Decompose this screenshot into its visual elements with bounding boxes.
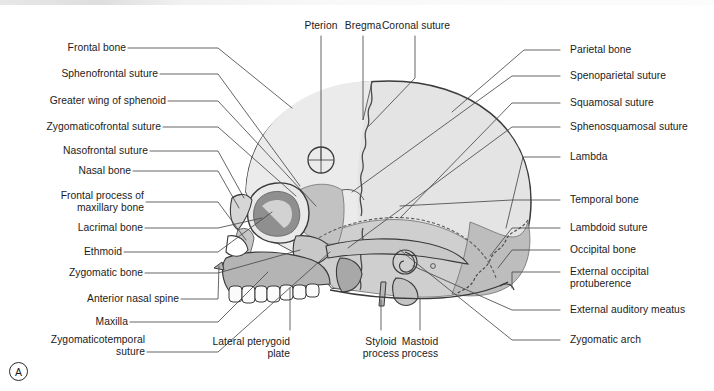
label-zygomatic-arch[interactable]: Zygomatic arch [570,334,702,346]
label-external-occipital-protuberence[interactable]: External occipital protuberence [570,266,698,291]
label-lambda[interactable]: Lambda [570,151,690,163]
label-coronal-suture[interactable]: Coronal suture [370,20,462,32]
label-ethmoid[interactable]: Ethmoid [0,246,122,258]
label-parietal-bone[interactable]: Parietal bone [570,44,712,56]
leader-anterior-nasal-spine [181,266,219,299]
label-zygomatic-bone[interactable]: Zygomatic bone [0,267,143,279]
label-sphenofrontal-suture[interactable]: Sphenofrontal suture [0,68,158,80]
panel-letter-a: A [9,362,28,381]
label-frontal-process-of-maxillary-bone[interactable]: Frontal process of maxillary bone [0,190,144,215]
label-zygomaticofrontal-suture[interactable]: Zygomaticofrontal suture [0,121,161,133]
label-greater-wing-of-sphenoid[interactable]: Greater wing of sphenoid [0,95,166,107]
label-external-auditory-meatus[interactable]: External auditory meatus [570,304,714,316]
label-lambdoid-suture[interactable]: Lambdoid suture [570,222,710,234]
label-lateral-pterygoid-plate[interactable]: Lateral pterygoid plate [200,336,290,361]
label-nasofrontal-suture[interactable]: Nasofrontal suture [0,145,148,157]
label-spenoparietal-suture[interactable]: Spenoparietal suture [570,70,714,82]
label-squamosal-suture[interactable]: Squamosal suture [570,97,712,109]
label-sphenosquamosal-suture[interactable]: Sphenosquamosal suture [570,121,714,133]
label-maxilla[interactable]: Maxilla [0,316,128,328]
label-zygomaticotemporal-suture[interactable]: Zygomaticotemporal suture [0,334,145,359]
label-occipital-bone[interactable]: Occipital bone [570,244,704,256]
label-anterior-nasal-spine[interactable]: Anterior nasal spine [0,293,179,305]
leader-nasofrontal-suture [150,151,244,198]
label-frontal-bone[interactable]: Frontal bone [0,42,126,54]
leader-nasal-bone [133,171,239,208]
label-mastoid-process[interactable]: Mastoid process [385,336,455,361]
label-temporal-bone[interactable]: Temporal bone [570,194,706,206]
skull-lateral-view-figure: Pterion Bregma Coronal suture Frontal bo… [0,0,714,391]
label-nasal-bone[interactable]: Nasal bone [0,165,131,177]
label-lacrimal-bone[interactable]: Lacrimal bone [0,222,143,234]
